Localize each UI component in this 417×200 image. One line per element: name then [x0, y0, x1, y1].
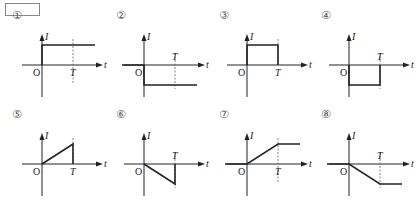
period-label: T	[172, 51, 178, 62]
t-axis-arrow-icon	[198, 63, 205, 68]
current-curve	[225, 144, 300, 164]
choice-number: ③	[219, 9, 229, 22]
period-label: T	[275, 67, 281, 78]
current-curve	[327, 164, 402, 184]
graph-panel-3: ③ I t O T	[205, 25, 309, 121]
t-axis-arrow-icon	[403, 162, 410, 167]
i-axis-arrow-icon	[245, 133, 250, 140]
i-axis-label: I	[147, 31, 150, 42]
origin-label: O	[135, 166, 142, 177]
graph-panel-5: ⑤ I t O T	[0, 124, 104, 200]
i-axis-arrow-icon	[142, 34, 147, 41]
period-label: T	[70, 166, 76, 177]
period-label: T	[377, 150, 383, 161]
period-label: T	[172, 150, 178, 161]
origin-label: O	[340, 166, 347, 177]
current-curve	[144, 164, 175, 184]
choice-number: ⑥	[116, 108, 126, 121]
current-curve	[349, 65, 380, 85]
graph-panel-2: ② I t O T	[102, 25, 206, 121]
current-curve	[122, 65, 197, 85]
period-label: T	[377, 51, 383, 62]
i-axis-label: I	[352, 130, 355, 141]
graph-step-down-constant	[102, 25, 206, 121]
i-axis-arrow-icon	[347, 133, 352, 140]
i-axis-arrow-icon	[347, 34, 352, 41]
answer-box[interactable]	[5, 3, 40, 16]
choice-number: ①	[12, 9, 22, 22]
graph-panel-8: ⑧ I t O T	[307, 124, 411, 200]
i-axis-label: I	[352, 31, 355, 42]
t-axis-label: t	[411, 59, 414, 70]
i-axis-label: I	[45, 130, 48, 141]
graph-positive-ramp-hold	[205, 124, 309, 200]
period-label: T	[70, 67, 76, 78]
t-axis-label: t	[411, 158, 414, 169]
origin-label: O	[33, 67, 40, 78]
origin-label: O	[135, 67, 142, 78]
graph-step-up-constant	[0, 25, 104, 121]
choice-number: ⑧	[321, 108, 331, 121]
graph-panel-7: ⑦ I t O T	[205, 124, 309, 200]
current-curve	[42, 144, 73, 164]
origin-label: O	[340, 67, 347, 78]
i-axis-label: I	[45, 31, 48, 42]
choice-number: ⑤	[12, 108, 22, 121]
current-curve	[42, 45, 95, 65]
i-axis-arrow-icon	[245, 34, 250, 41]
period-label: T	[275, 166, 281, 177]
choice-number: ④	[321, 9, 331, 22]
current-curve	[247, 45, 278, 65]
i-axis-label: I	[147, 130, 150, 141]
i-axis-arrow-icon	[40, 34, 45, 41]
choice-number: ②	[116, 9, 126, 22]
graph-negative-ramp-pulse	[102, 124, 206, 200]
origin-label: O	[238, 67, 245, 78]
graph-positive-ramp-pulse	[0, 124, 104, 200]
t-axis-arrow-icon	[198, 162, 205, 167]
i-axis-arrow-icon	[40, 133, 45, 140]
origin-label: O	[33, 166, 40, 177]
graph-panel-6: ⑥ I t O T	[102, 124, 206, 200]
graph-panel-1: ① I t O T	[0, 25, 104, 121]
i-axis-arrow-icon	[142, 133, 147, 140]
origin-label: O	[238, 166, 245, 177]
i-axis-label: I	[250, 31, 253, 42]
graph-panel-4: ④ I t O T	[307, 25, 411, 121]
t-axis-arrow-icon	[403, 63, 410, 68]
choice-number: ⑦	[219, 108, 229, 121]
graph-negative-ramp-hold	[307, 124, 411, 200]
i-axis-label: I	[250, 130, 253, 141]
graph-negative-pulse	[307, 25, 411, 121]
graph-positive-pulse	[205, 25, 309, 121]
